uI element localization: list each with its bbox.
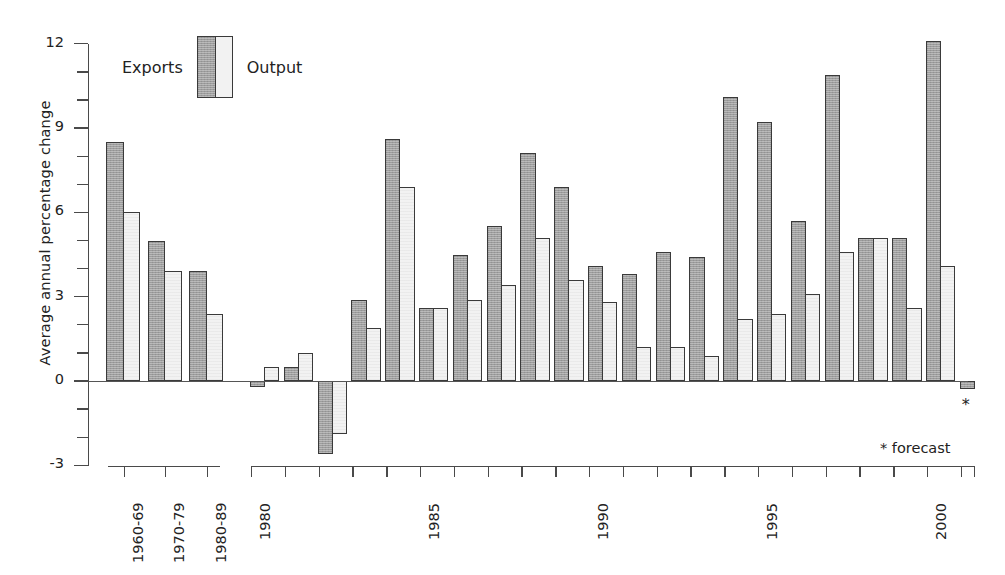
x-tick-decade [124,466,125,477]
bar-output [399,187,414,381]
y-tick-minor [77,352,88,353]
x-tick-year [758,466,759,477]
bar-exports [723,97,738,381]
bar-output [568,280,583,381]
y-tick-label: 12 [24,34,64,50]
bar-exports [689,257,704,381]
y-tick-major [74,465,88,466]
bar-output [123,212,141,381]
y-tick-minor [77,71,88,72]
x-tick-year [319,466,320,477]
bar-output [737,319,752,381]
forecast-note: * forecast [880,440,951,456]
bar-output [332,381,347,434]
y-tick-major [74,212,88,213]
y-tick-major [74,380,88,381]
y-tick-minor [77,324,88,325]
bar-exports [106,142,124,381]
x-tick-year [488,466,489,477]
bar-output [771,314,786,381]
x-tick-decade [165,466,166,477]
x-tick-decade [207,466,208,477]
x-tick-year [724,466,725,477]
bar-exports [554,187,569,381]
x-tick-label-year: 1990 [595,503,611,540]
x-tick-year [555,466,556,477]
x-tick-year [927,466,928,477]
y-axis-line [88,44,89,466]
bar-output [704,356,719,381]
chart-legend: Exports Output [122,36,302,98]
bar-output [264,367,279,381]
y-tick-minor [77,437,88,438]
y-tick-minor [77,408,88,409]
bar-output [940,266,955,381]
bar-output [670,347,685,381]
bar-output [298,353,313,381]
bar-output [366,328,381,381]
bar-exports [284,367,299,381]
x-tick-label-year: 2000 [933,503,949,540]
y-tick-minor [77,99,88,100]
bar-exports [858,238,873,381]
x-tick-label-year: 1995 [764,503,780,540]
bar-exports [318,381,333,454]
x-tick-year [623,466,624,477]
x-tick-label-year: 1985 [426,503,442,540]
legend-swatch-group [197,36,233,98]
x-tick-year [251,466,252,477]
x-tick-year [521,466,522,477]
bar-exports [656,252,671,381]
x-tick-year [690,466,691,477]
y-tick-label: 6 [24,202,64,218]
x-tick-label-decade: 1980-89 [213,502,229,563]
x-tick-year [386,466,387,477]
bar-output [433,308,448,381]
zero-baseline [88,381,968,382]
x-tick-year [420,466,421,477]
x-tick-label-decade: 1970-79 [171,502,187,563]
bar-exports [148,241,166,382]
chart-root: Average annual percentage change Exports… [0,0,1005,575]
x-tick-year [792,466,793,477]
legend-swatch-output [215,36,233,98]
bar-exports [453,255,468,381]
x-tick-year [657,466,658,477]
bar-exports [351,300,366,381]
bar-exports [757,122,772,381]
bar-exports [791,221,806,381]
x-tick-year [352,466,353,477]
bar-output [906,308,921,381]
y-tick-label: 9 [24,118,64,134]
bar-exports [385,139,400,381]
x-tick-year-end [974,466,975,477]
forecast-star-marker: * [962,397,970,413]
x-tick-year [859,466,860,477]
x-tick-label-year: 1980 [257,503,273,540]
bar-exports [487,226,502,381]
y-tick-minor [77,184,88,185]
x-axis-line-annual [251,466,975,467]
bar-output [501,285,516,381]
bar-exports [588,266,603,381]
y-tick-label: -3 [24,455,64,471]
bar-output [636,347,651,381]
y-tick-minor [77,268,88,269]
y-tick-minor [77,240,88,241]
legend-swatch-exports [197,36,215,98]
x-tick-year [893,466,894,477]
bar-output [467,300,482,381]
bar-exports [892,238,907,381]
bar-exports [419,308,434,381]
bar-output [805,294,820,381]
bar-output [535,238,550,381]
x-tick-year [589,466,590,477]
x-tick-year [285,466,286,477]
bar-output [873,238,888,381]
y-tick-major [74,127,88,128]
legend-label-output: Output [247,58,303,77]
legend-label-exports: Exports [122,58,183,77]
bar-output [602,302,617,381]
bar-output [206,314,224,381]
x-tick-year [961,466,962,477]
